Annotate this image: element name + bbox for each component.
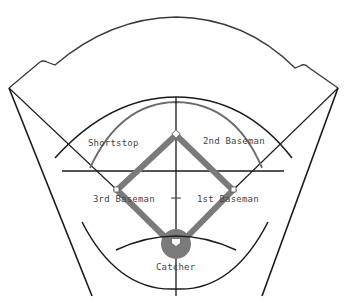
label-third-baseman: 3rd Baseman	[93, 194, 155, 204]
right-outer-line	[262, 88, 338, 296]
third-base	[114, 187, 119, 192]
first-base	[231, 187, 236, 192]
field-drawing	[0, 0, 355, 301]
infield-arc	[55, 97, 292, 158]
label-shortstop: Shortstop	[88, 138, 139, 148]
outfield-fence	[9, 17, 338, 88]
label-catcher: Catcher	[156, 262, 195, 272]
baseball-field-diagram: Shortstop 2nd Baseman 3rd Baseman 1st Ba…	[0, 0, 355, 301]
label-first-baseman: 1st Baseman	[197, 194, 259, 204]
label-second-baseman: 2nd Baseman	[203, 136, 265, 146]
left-outer-line	[9, 88, 92, 296]
